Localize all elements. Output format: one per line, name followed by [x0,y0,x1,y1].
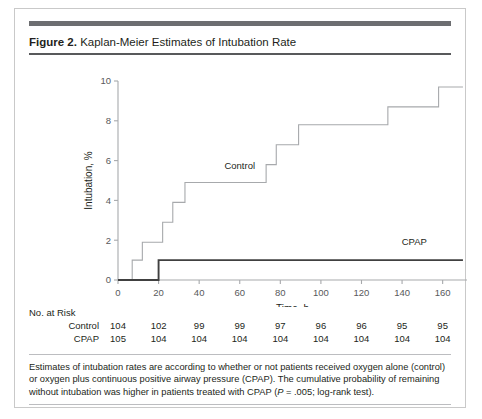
risk-cell: 97 [263,320,297,331]
y-tick-label: 4 [106,195,111,206]
risk-cell: 104 [426,333,460,344]
figure-number: Figure 2. [29,36,77,48]
x-tick-label: 120 [354,287,370,298]
risk-cell: 104 [101,320,135,331]
risk-cell: 102 [142,320,176,331]
risk-cell: 104 [344,333,378,344]
y-tick-label: 10 [100,75,111,86]
chart-plot-area: 0246810020406080100120140160Time, hIntub… [15,59,467,307]
x-tick-label: 160 [435,287,451,298]
risk-cell: 104 [263,333,297,344]
x-tick-label: 100 [313,287,329,298]
y-tick-label: 0 [106,274,111,285]
caption-bottom-rule [29,404,451,405]
risk-cell: 95 [385,320,419,331]
risk-table-heading: No. at Risk [29,307,75,318]
x-tick-label: 140 [394,287,410,298]
risk-table: No. at Risk Control10410299999796969595C… [15,307,467,353]
y-axis-title: Intubation, % [83,151,94,209]
figure-title-text: Kaplan-Meier Estimates of Intubation Rat… [80,36,296,48]
figure-title: Figure 2. Kaplan-Meier Estimates of Intu… [29,33,453,51]
risk-cell: 104 [142,333,176,344]
series-label-control: Control [224,160,255,171]
risk-cell: 104 [304,333,338,344]
risk-cell: 105 [101,333,135,344]
x-tick-label: 60 [234,287,245,298]
y-tick-label: 8 [106,115,111,126]
risk-cell: 104 [223,333,257,344]
figure-title-underrule [29,53,451,55]
chart-axes [114,81,467,284]
risk-cell: 95 [426,320,460,331]
figure-top-rule [29,21,451,26]
figure-caption: Estimates of intubation rates are accord… [29,361,451,398]
series-line-cpap [118,260,463,280]
chart-curves [118,87,463,280]
x-tick-label: 0 [115,287,120,298]
risk-cell: 96 [344,320,378,331]
risk-cell: 99 [223,320,257,331]
kaplan-meier-chart: 0246810020406080100120140160Time, hIntub… [15,59,467,307]
y-tick-label: 6 [106,155,111,166]
risk-cell: 104 [385,333,419,344]
figure-card: Figure 2. Kaplan-Meier Estimates of Intu… [14,8,466,408]
risk-cell: 96 [304,320,338,331]
series-label-cpap: CPAP [402,236,427,247]
series-line-control [118,87,463,280]
caption-text-part2: = .005; log-rank test). [283,387,374,397]
x-tick-label: 20 [153,287,164,298]
risk-row-label-control: Control [29,320,99,331]
risk-cell: 104 [182,333,216,344]
risk-row-label-cpap: CPAP [29,333,99,344]
y-tick-label: 2 [106,235,111,246]
risk-cell: 99 [182,320,216,331]
chart-text-labels: 0246810020406080100120140160Time, hIntub… [83,75,451,307]
caption-top-rule [29,354,451,355]
caption-text-part1: Estimates of intubation rates are accord… [29,362,445,397]
x-tick-label: 80 [275,287,286,298]
x-tick-label: 40 [194,287,205,298]
